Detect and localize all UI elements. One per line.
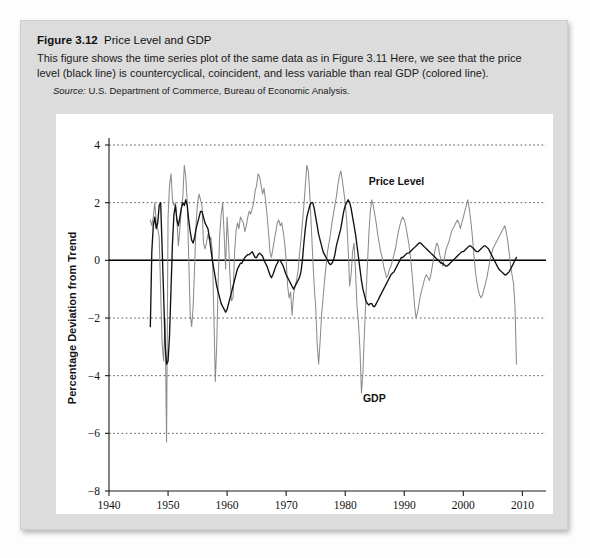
price-level-gdp-chart: Price LevelGDP 420−2−4−6−819401950196019…: [56, 114, 553, 514]
y-axis-title: Percentage Deviation from Trend: [66, 232, 78, 404]
source-text: U.S. Department of Commerce, Bureau of E…: [88, 85, 349, 96]
series-annotations: Price LevelGDP: [363, 175, 424, 403]
annotation-gdp: GDP: [363, 392, 386, 404]
figure-card: Figure 3.12 Price Level and GDP This fig…: [20, 20, 568, 530]
figure-title-line: Figure 3.12 Price Level and GDP: [37, 33, 547, 48]
y-tick-label: 4: [94, 139, 100, 151]
axes: [105, 138, 546, 496]
y-tick-label: 2: [94, 197, 100, 209]
y-tick-label: 0: [94, 254, 100, 266]
axis-labels: 420−2−4−6−819401950196019701980199020002…: [66, 139, 534, 514]
annotation-price-level: Price Level: [369, 175, 425, 187]
y-tick-label: −6: [88, 427, 100, 439]
x-tick-label: 1970: [275, 499, 298, 511]
x-tick-label: 2010: [511, 499, 534, 511]
x-tick-label: 1940: [98, 499, 121, 511]
figure-page: Figure 3.12 Price Level and GDP This fig…: [0, 0, 590, 558]
figure-source: Source: U.S. Department of Commerce, Bur…: [53, 84, 547, 97]
x-tick-label: 1980: [334, 499, 357, 511]
x-tick-label: 1960: [216, 499, 239, 511]
figure-caption: Figure 3.12 Price Level and GDP This fig…: [37, 33, 547, 97]
figure-title: Price Level and GDP: [104, 34, 211, 46]
data-series: [150, 165, 516, 442]
chart-panel: Price LevelGDP 420−2−4−6−819401950196019…: [56, 114, 553, 514]
figure-number: Figure 3.12: [37, 34, 98, 46]
y-tick-label: −2: [88, 312, 100, 324]
x-tick-label: 2000: [452, 499, 475, 511]
y-tick-label: −8: [88, 485, 100, 497]
series-line-gdp: [150, 165, 516, 442]
x-tick-label: 1950: [157, 499, 180, 511]
gridlines: [109, 145, 546, 433]
x-tick-label: 1990: [393, 499, 416, 511]
chart-plot-area: Price LevelGDP 420−2−4−6−819401950196019…: [56, 114, 553, 514]
y-tick-label: −4: [88, 370, 100, 382]
source-label: Source:: [53, 85, 86, 96]
figure-description: This figure shows the time series plot o…: [37, 51, 547, 80]
